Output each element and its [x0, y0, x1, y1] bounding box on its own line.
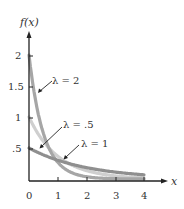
x-tick-label-0: 0: [26, 190, 32, 201]
curves: [29, 55, 144, 179]
y-tick-label-1: 1: [15, 112, 21, 123]
label-lambda-0-5: λ = .5: [63, 119, 94, 130]
x-tick-label-2: 2: [84, 190, 90, 201]
y-tick-label-1-5: 1.5: [8, 81, 24, 92]
y-tick-label-0-5: .5: [12, 143, 22, 154]
pointer-lambda-2: [40, 81, 52, 91]
x-axis-label: x: [171, 175, 178, 188]
x-axis-arrow-icon: [161, 179, 168, 184]
x-tick-label-4: 4: [141, 190, 147, 201]
x-tick-label-3: 3: [113, 190, 119, 201]
y-tick-label-2: 2: [15, 50, 21, 61]
label-lambda-2: λ = 2: [52, 75, 79, 86]
pointer-lambda-1: [66, 145, 79, 157]
label-lambda-1: λ = 1: [81, 138, 108, 149]
y-axis-arrow-icon: [27, 31, 32, 38]
curve-lambda-2: [29, 55, 144, 179]
x-tick-label-1: 1: [55, 190, 61, 201]
y-axis-label: f(x): [19, 16, 39, 29]
exponential-density-chart: .5 1 1.5 2 0 1 2 3 4 f(x) x λ = 2 λ = .5…: [0, 0, 184, 209]
